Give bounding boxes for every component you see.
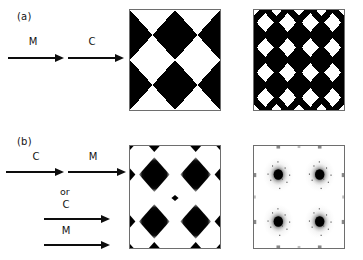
- arrow-m-2-head: [117, 168, 126, 176]
- arrow-c-3-shaft: [44, 218, 102, 220]
- arrow-m-2-label: M: [73, 151, 113, 162]
- pattern-fine-checker: [253, 9, 345, 111]
- arrow-or-label: or: [60, 186, 70, 197]
- arrow-c-3-label: C: [56, 199, 76, 210]
- pattern-sharp-diamonds: [129, 145, 221, 249]
- arrow-m-3-label: M: [56, 225, 76, 236]
- pattern-coarse-checker-canvas: [130, 10, 220, 110]
- arrow-m-1-label: M: [13, 36, 53, 47]
- arrow-c-1-shaft: [68, 57, 116, 59]
- arrow-c-1-label: C: [72, 36, 112, 47]
- arrow-m-2-shaft: [68, 171, 118, 173]
- figure-root: (a) M C: [0, 0, 363, 260]
- arrow-m-3-head: [101, 241, 110, 249]
- pattern-coarse-checker: [129, 9, 221, 111]
- arrow-m-3-shaft: [44, 244, 102, 246]
- panel-a: (a) M C: [0, 0, 363, 125]
- arrow-m-1-head: [55, 54, 64, 62]
- arrow-c-2-head: [55, 168, 64, 176]
- pattern-fine-checker-canvas: [254, 10, 344, 110]
- arrow-c-2-shaft: [6, 171, 56, 173]
- pattern-diffuse-spots: [253, 145, 345, 249]
- arrow-m-1-shaft: [8, 57, 56, 59]
- arrow-c-1-head: [115, 54, 124, 62]
- panel-a-label: (a): [17, 11, 32, 22]
- arrow-c-2-label: C: [16, 151, 56, 162]
- arrow-c-3-head: [101, 215, 110, 223]
- panel-b-label: (b): [17, 136, 32, 147]
- panel-b: (b) C M or C M: [0, 125, 363, 260]
- pattern-sharp-diamonds-canvas: [130, 146, 220, 248]
- pattern-diffuse-spots-canvas: [254, 146, 344, 248]
